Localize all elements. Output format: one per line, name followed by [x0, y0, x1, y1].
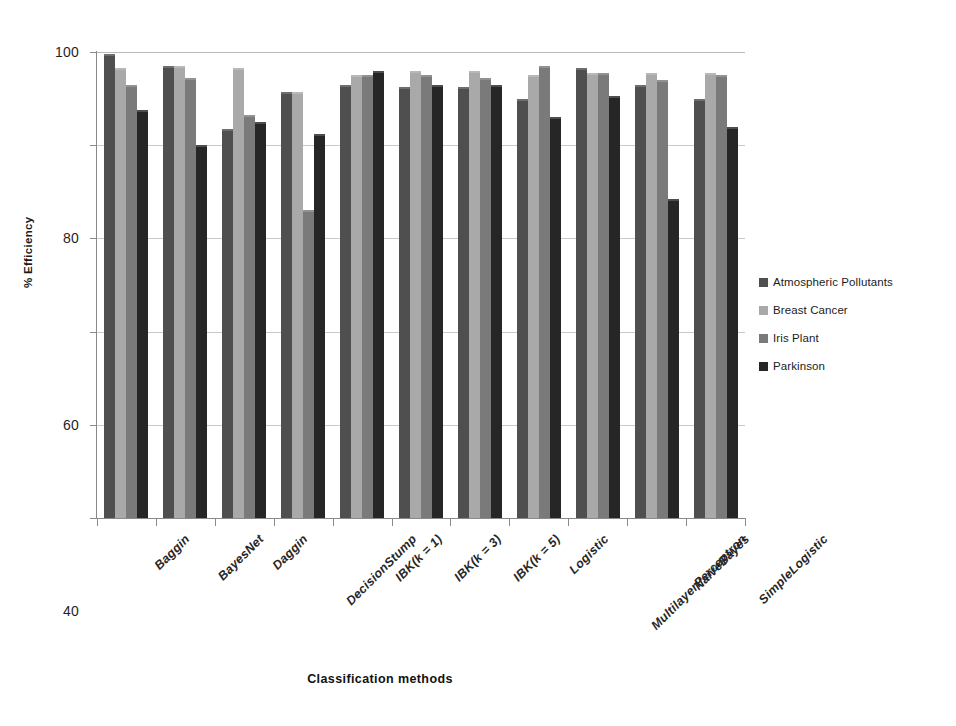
x-axis-tick	[627, 518, 628, 526]
x-axis-tick-label: BayesNet	[215, 532, 266, 583]
x-axis-tick	[333, 518, 334, 526]
legend-item: Parkinson	[759, 352, 949, 380]
y-axis-title: % Efficiency	[22, 217, 34, 288]
x-axis-tick-label: IBK(k = 3)	[452, 532, 504, 584]
bar	[137, 110, 148, 518]
bar	[528, 75, 539, 518]
x-axis-tick-label: SimpleLogistic	[755, 532, 830, 607]
y-axis-tick: 100	[90, 52, 97, 53]
y-axis-tick-label: 40	[63, 603, 79, 619]
bar	[314, 134, 325, 518]
bar	[163, 66, 174, 518]
bar	[281, 92, 292, 518]
bar	[373, 71, 384, 518]
bar	[646, 73, 657, 518]
bar	[340, 85, 351, 518]
bar	[222, 129, 233, 518]
y-axis-tick-label: 100	[55, 44, 79, 60]
y-axis-tick: 0	[90, 518, 97, 519]
bar	[587, 73, 598, 518]
legend-item: Iris Plant	[759, 324, 949, 352]
bar	[233, 68, 244, 518]
bar	[517, 99, 528, 518]
legend-swatch	[759, 334, 768, 343]
bar	[539, 66, 550, 518]
x-axis-tick	[450, 518, 451, 526]
bar	[432, 85, 443, 518]
y-axis-tick: 40	[90, 332, 97, 333]
bar-groups	[97, 52, 745, 518]
x-axis-tick	[686, 518, 687, 526]
plot-area: 020406080100 BagginBayesNetDagginDecisio…	[97, 52, 745, 518]
legend-swatch	[759, 278, 768, 287]
bar	[410, 71, 421, 518]
bar	[727, 127, 738, 518]
bar	[491, 85, 502, 518]
bar	[399, 87, 410, 518]
bar	[196, 145, 207, 518]
bar	[126, 85, 137, 518]
bar	[115, 68, 126, 518]
bar-group	[392, 52, 451, 518]
bar	[705, 73, 716, 518]
bar	[362, 75, 373, 518]
bar-group	[627, 52, 686, 518]
bar	[609, 96, 620, 518]
x-axis-tick	[568, 518, 569, 526]
x-axis-tick	[97, 518, 98, 526]
legend-label: Parkinson	[773, 360, 825, 372]
bar	[598, 73, 609, 518]
bar-group	[568, 52, 627, 518]
x-axis-tick-label: Baggin	[152, 532, 193, 573]
bar	[244, 115, 255, 518]
x-axis-tick	[215, 518, 216, 526]
bar-group	[274, 52, 333, 518]
legend-item: Atmospheric Pollutants	[759, 268, 949, 296]
bar	[635, 85, 646, 518]
bar	[255, 122, 266, 518]
x-axis-tick	[392, 518, 393, 526]
x-axis-tick-label: Logistic	[566, 532, 611, 577]
bar-group	[509, 52, 568, 518]
bar	[351, 75, 362, 518]
legend-swatch	[759, 362, 768, 371]
y-axis-tick-label: 60	[63, 417, 79, 433]
plot-wrap: 020406080100 BagginBayesNetDagginDecisio…	[97, 52, 745, 518]
bar-group	[450, 52, 509, 518]
legend-label: Iris Plant	[773, 332, 819, 344]
y-axis-tick: 60	[90, 238, 97, 239]
bar	[458, 87, 469, 518]
legend-label: Breast Cancer	[773, 304, 848, 316]
legend-label: Atmospheric Pollutants	[773, 276, 893, 288]
legend-item: Breast Cancer	[759, 296, 949, 324]
x-axis-line	[96, 518, 746, 519]
bar	[469, 71, 480, 518]
x-axis-tick-label: IBK(k = 5)	[510, 532, 562, 584]
y-axis-tick: 20	[90, 425, 97, 426]
bar	[550, 117, 561, 518]
legend: Atmospheric PollutantsBreast CancerIris …	[759, 268, 949, 380]
bar-group	[686, 52, 745, 518]
bar	[104, 54, 115, 518]
x-axis-tick-label: Daggin	[270, 532, 311, 573]
bar-group	[97, 52, 156, 518]
x-axis-title: Classification methods	[0, 672, 760, 686]
y-axis-tick-label: 80	[63, 230, 79, 246]
bar-chart: % Efficiency 020406080100 BagginBayesNet…	[0, 0, 956, 726]
bar	[421, 75, 432, 518]
x-axis-tick	[156, 518, 157, 526]
bar-group	[333, 52, 392, 518]
bar	[480, 78, 491, 518]
x-axis-tick	[745, 518, 746, 526]
bar	[174, 66, 185, 518]
y-axis-tick: 80	[90, 145, 97, 146]
bar-group	[156, 52, 215, 518]
bar	[576, 68, 587, 518]
x-axis-tick-label: NaiveBayes	[691, 532, 752, 593]
x-axis-tick	[509, 518, 510, 526]
bar	[716, 75, 727, 518]
bar	[657, 80, 668, 518]
legend-swatch	[759, 306, 768, 315]
bar	[694, 99, 705, 518]
bar-group	[215, 52, 274, 518]
